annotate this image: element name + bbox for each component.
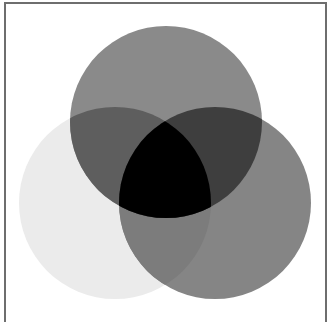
venn-diagram — [0, 0, 331, 316]
